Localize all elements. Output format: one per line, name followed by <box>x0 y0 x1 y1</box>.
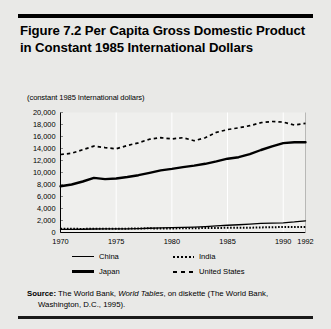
x-axis-tick-label: 1980 <box>164 237 180 246</box>
source-label: Source: <box>27 289 56 298</box>
figure-card: Figure 7.2 Per Capita Gross Domestic Pro… <box>0 0 331 329</box>
y-axis-tick-label: 16,000 <box>33 132 56 141</box>
x-axis-tick-label: 1985 <box>219 237 235 246</box>
source-text-before: The World Bank, <box>56 289 118 298</box>
source-text-after: , on diskette (The World Bank, <box>163 289 268 298</box>
y-axis-tick-label: 2,000 <box>37 216 56 225</box>
y-axis-tick-label: 4,000 <box>37 204 56 213</box>
x-axis-tick-label: 1970 <box>52 237 68 246</box>
x-axis-tick-label: 1992 <box>297 237 313 246</box>
legend-item-japan: Japan <box>72 267 172 276</box>
bottom-rule <box>18 316 313 319</box>
source-line-two: Washington, D.C., 1995). <box>38 299 309 310</box>
legend-label-japan: Japan <box>99 267 120 276</box>
legend-item-china: China <box>72 252 172 261</box>
y-axis-tick-label: 12,000 <box>33 156 56 165</box>
source-italic-title: World Tables <box>118 289 163 298</box>
legend-swatch-japan-icon <box>72 268 94 275</box>
legend-label-india: India <box>199 252 215 261</box>
y-axis-tick-label: 18,000 <box>33 120 56 129</box>
y-axis-tick-label: 14,000 <box>33 144 56 153</box>
y-axis-tick-label: 6,000 <box>37 192 56 201</box>
y-axis-tick-label: 8,000 <box>37 180 56 189</box>
chart-legend: China India Japan United States <box>72 252 287 276</box>
line-chart-svg: 02,0004,0006,0008,00010,00012,00014,0001… <box>0 0 331 329</box>
y-axis-tick-label: 20,000 <box>33 108 56 117</box>
legend-label-china: China <box>99 252 119 261</box>
legend-item-united-states: United States <box>172 267 287 276</box>
y-axis-tick-label: 10,000 <box>33 168 56 177</box>
x-axis-tick-label: 1990 <box>275 237 291 246</box>
legend-label-united-states: United States <box>199 267 245 276</box>
legend-item-india: India <box>172 252 287 261</box>
source-note: Source: The World Bank, World Tables, on… <box>27 288 309 310</box>
chart-plot-area: 02,0004,0006,0008,00010,00012,00014,0001… <box>0 0 331 329</box>
x-axis-tick-label: 1975 <box>108 237 124 246</box>
legend-swatch-china-icon <box>72 253 94 260</box>
legend-swatch-india-icon <box>172 253 194 260</box>
legend-swatch-united-states-icon <box>172 268 194 275</box>
